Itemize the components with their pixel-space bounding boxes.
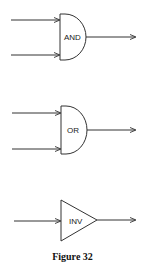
and-gate: AND — [11, 14, 135, 60]
and-gate-label: AND — [64, 33, 81, 42]
logic-gates-diagram: AND OR INV — [0, 0, 145, 266]
or-gate: OR — [12, 106, 135, 154]
or-gate-label: OR — [67, 126, 79, 135]
figure-caption: Figure 32 — [0, 251, 145, 262]
inv-gate: INV — [14, 200, 135, 241]
inv-gate-label: INV — [69, 217, 83, 226]
